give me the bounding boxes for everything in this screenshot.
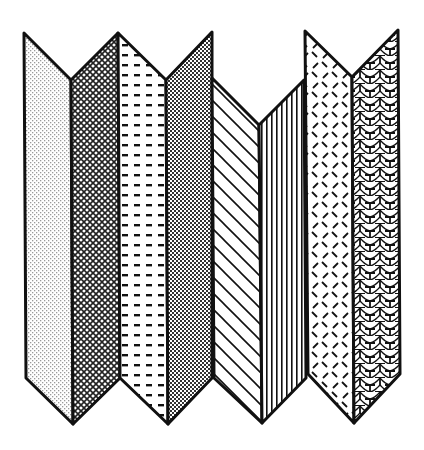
screen-panels <box>24 30 400 424</box>
folding-screen-svg <box>0 0 424 450</box>
panel-fish-scales <box>352 30 400 423</box>
panel-vertical-lines <box>259 80 306 423</box>
panel-horizontal-dashes <box>118 33 168 424</box>
panel-diagonal-dashes <box>305 31 354 423</box>
panel-stipple <box>24 33 73 424</box>
panel-diagonal-lines <box>212 78 262 423</box>
folding-screen-illustration: Folding screen with patterned panels <box>0 0 424 450</box>
panel-diamond-crosshatch <box>71 33 120 424</box>
panel-checker <box>166 32 212 424</box>
